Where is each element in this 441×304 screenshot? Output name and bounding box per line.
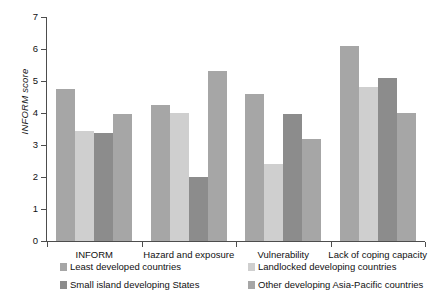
x-axis-tick [236, 242, 237, 247]
x-axis-tick [425, 242, 426, 247]
legend-swatch-icon [60, 281, 67, 289]
legend-swatch-icon [248, 263, 255, 271]
legend-item: Least developed countries [60, 261, 181, 272]
legend-item-label: Small island developing States [70, 279, 199, 290]
bar [302, 139, 321, 241]
x-axis-tick [142, 242, 143, 247]
x-axis-tick [331, 242, 332, 247]
bar [359, 87, 378, 241]
bar [56, 89, 75, 241]
bar [151, 105, 170, 241]
legend-item-label: Landlocked developing countries [258, 261, 396, 272]
bar [75, 131, 94, 241]
legend-item: Landlocked developing countries [248, 261, 396, 272]
bar [94, 133, 113, 241]
bar [340, 46, 359, 241]
bar-chart-figure: INFORM score 01234567 INFORMHazard and e… [0, 0, 441, 304]
legend-item: Small island developing States [60, 279, 199, 290]
bar [170, 113, 189, 241]
legend-item-label: Least developed countries [70, 261, 181, 272]
legend-item-label: Other developing Asia-Pacific countries [258, 279, 423, 290]
chart-legend: Least developed countriesLandlocked deve… [60, 261, 435, 297]
legend-swatch-icon [60, 263, 67, 271]
legend-item: Other developing Asia-Pacific countries [248, 279, 423, 290]
bar [189, 177, 208, 241]
bar [113, 114, 132, 241]
bar [264, 164, 283, 241]
bar [245, 94, 264, 241]
legend-swatch-icon [248, 281, 255, 289]
x-axis-tick [47, 242, 48, 247]
bar [283, 114, 302, 241]
x-axis-group-label: Lack of coping capacity [308, 249, 441, 260]
bar [397, 113, 416, 241]
bar [378, 78, 397, 241]
bar [208, 71, 227, 241]
